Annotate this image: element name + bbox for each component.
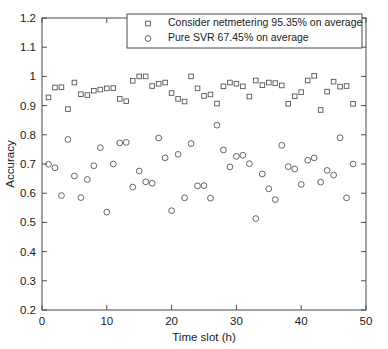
y-tick-label: 0.5	[20, 216, 36, 228]
figure-container: 0.20.30.40.50.60.70.80.911.11.2 01020304…	[0, 0, 388, 349]
legend: Consider netmetering 95.35% on averagePu…	[127, 14, 363, 48]
y-axis-tick-labels: 0.20.30.40.50.60.70.80.911.11.2	[20, 12, 37, 316]
y-tick-label: 0.4	[20, 246, 37, 258]
y-tick-label: 0.3	[20, 275, 36, 287]
x-tick-label: 10	[100, 315, 113, 327]
x-tick-label: 0	[39, 315, 45, 327]
y-axis-title: Accuracy	[4, 140, 16, 188]
x-tick-label: 30	[230, 315, 243, 327]
y-tick-label: 1.2	[20, 12, 36, 24]
y-tick-label: 1	[30, 70, 36, 82]
legend-label: Pure SVR 67.45% on average	[168, 31, 309, 43]
y-tick-label: 0.9	[20, 100, 36, 112]
x-tick-label: 20	[165, 315, 178, 327]
x-axis-tick-labels: 01020304050	[39, 315, 373, 327]
y-tick-label: 0.8	[20, 129, 36, 141]
legend-label: Consider netmetering 95.35% on average	[168, 16, 363, 28]
x-axis-title: Time slot (h)	[172, 331, 236, 343]
y-tick-label: 0.7	[20, 158, 36, 170]
y-tick-label: 0.2	[20, 304, 36, 316]
y-tick-label: 1.1	[20, 41, 36, 53]
x-tick-label: 50	[360, 315, 373, 327]
y-tick-label: 0.6	[20, 187, 36, 199]
scatter-plot: 0.20.30.40.50.60.70.80.911.11.2 01020304…	[0, 0, 388, 349]
plot-background	[42, 18, 366, 310]
x-tick-label: 40	[295, 315, 308, 327]
